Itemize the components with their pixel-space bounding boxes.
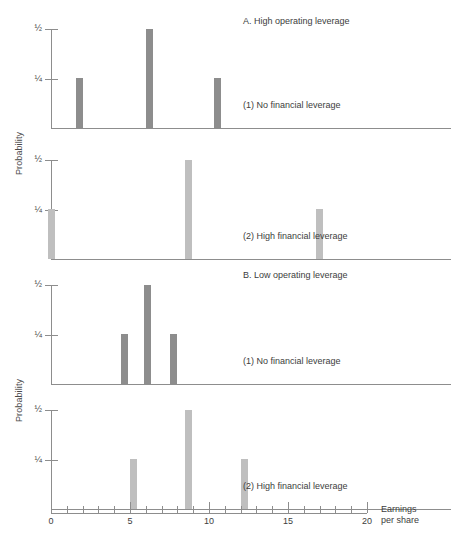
x-axis-title-line2: per share [381,515,419,526]
bar [170,334,177,384]
bar [130,459,137,509]
bar [214,78,221,128]
panel-b1-note: (1) No financial leverage [243,356,341,366]
x-axis-minor-tick [351,506,352,513]
panel-a1-ytick-quarter: ¼ [45,79,58,80]
panel-b1-ytick-quarter-label: ¼ [34,329,42,340]
panel-b2-ytick-quarter: ¼ [45,460,58,461]
x-axis-major-tick [367,502,368,513]
panel-b2-ytick-half-label: ½ [34,404,42,415]
x-axis-title: Earnings per share [381,504,419,526]
x-axis-title-line1: Earnings [381,504,419,515]
panel-a2-ytick-quarter-label: ¼ [34,204,42,215]
panel-a2-note: (2) High financial leverage [243,231,348,241]
panel-a1-ytick-half-label: ½ [34,23,42,34]
x-axis-minor-tick [83,506,84,513]
x-axis-minor-tick [162,506,163,513]
panel-a2-ytick-half: ½ [45,160,58,161]
y-axis-title-a: Probability [14,132,24,175]
panel-b2-ytick-quarter-label: ¼ [34,454,42,465]
panel-b1-plot: ½ ¼ [51,285,451,385]
panel-b1-ytick-half-label: ½ [34,279,42,290]
x-axis-minor-tick [193,506,194,513]
bar [185,410,192,509]
x-axis-minor-tick [146,506,147,513]
panel-a1-ytick-quarter-label: ¼ [34,73,42,84]
panel-b1-ytick-half: ½ [45,285,58,286]
panel-a1-plot: ½ ¼ [51,29,451,129]
panel-a1-ytick-half: ½ [45,29,58,30]
panel-b2-ytick-half: ½ [45,410,58,411]
x-axis-major-tick [130,502,131,513]
bar [144,285,151,384]
x-axis-minor-tick [225,506,226,513]
x-axis-tick-label: 20 [362,516,372,526]
group-a-title: A. High operating leverage [243,16,350,26]
panel-a2-ytick-half-label: ½ [34,154,42,165]
x-axis-minor-tick [98,506,99,513]
x-axis-major-tick [209,502,210,513]
x-axis-tick-label: 0 [48,516,53,526]
panel-a2-plot: ½ ¼ [51,160,451,260]
leverage-probability-figure: A. High operating leverage Probability ½… [0,0,466,553]
panel-b1-baseline [51,384,451,385]
panel-b2-plot: ½ ¼ [51,410,451,510]
x-axis-minor-tick [256,506,257,513]
x-axis-major-tick [51,502,52,513]
x-axis-line [51,513,367,514]
x-axis-minor-tick [114,506,115,513]
x-axis-major-tick [288,502,289,513]
x-axis-minor-tick [304,506,305,513]
x-axis-minor-tick [335,506,336,513]
x-axis-minor-tick [320,506,321,513]
group-b-title: B. Low operating leverage [243,270,348,280]
panel-a1-baseline [51,128,451,129]
panel-a2-baseline [51,259,451,260]
bar [48,209,55,259]
x-axis-tick-label: 10 [204,516,214,526]
x-axis-minor-tick [177,506,178,513]
x-axis-tick-label: 5 [127,516,132,526]
panel-a1-note: (1) No financial leverage [243,100,341,110]
x-axis: 05101520 Earnings per share [51,513,451,553]
panel-b1-ytick-quarter: ¼ [45,335,58,336]
panel-b2-note: (2) High financial leverage [243,481,348,491]
bar [76,78,83,128]
bar [185,160,192,259]
y-axis-title-b: Probability [14,379,24,422]
bar [121,334,128,384]
x-axis-minor-tick [241,506,242,513]
x-axis-minor-tick [67,506,68,513]
x-axis-minor-tick [272,506,273,513]
bar [146,29,153,128]
x-axis-tick-label: 15 [283,516,293,526]
